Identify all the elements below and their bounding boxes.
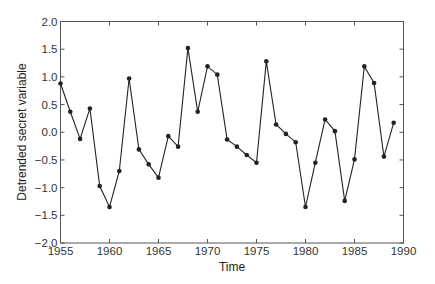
data-point [274, 122, 279, 127]
x-tick-label: 1975 [244, 245, 270, 257]
data-point [88, 106, 93, 111]
data-point [313, 160, 318, 165]
data-point [323, 117, 328, 122]
data-point [166, 134, 171, 139]
y-tick-label: 2.0 [42, 16, 58, 28]
data-point [382, 154, 387, 159]
y-axis-label: Detrended secret variable [15, 63, 29, 201]
x-tick-label: 1960 [97, 245, 123, 257]
line-chart: 2.01.51.00.50.0−0.5−1.0−1.5−2.0 19551960… [0, 0, 435, 284]
data-point [78, 137, 83, 142]
data-point [284, 132, 289, 137]
data-point [97, 184, 102, 189]
y-tick-label: −1.0 [35, 182, 58, 194]
y-tick-label: −1.5 [35, 209, 58, 221]
data-point [176, 144, 181, 149]
data-point [127, 76, 132, 81]
data-point [225, 137, 230, 142]
data-point [362, 64, 367, 69]
data-point [146, 162, 151, 167]
data-point [352, 157, 357, 162]
series-line [61, 48, 394, 207]
data-point [303, 205, 308, 210]
y-tick-label: −0.5 [35, 154, 58, 166]
x-tick-label: 1980 [293, 245, 319, 257]
data-point [333, 129, 338, 134]
data-point [205, 64, 210, 69]
data-point [342, 199, 347, 204]
data-point [195, 109, 200, 114]
x-tick-label: 1970 [195, 245, 221, 257]
x-tick-label: 1965 [146, 245, 172, 257]
data-point [107, 205, 112, 210]
y-tick-label: 0.0 [42, 126, 58, 138]
series-markers [58, 46, 396, 210]
y-tick-label: 1.5 [42, 43, 58, 55]
data-point [244, 153, 249, 158]
x-tick-label: 1985 [342, 245, 368, 257]
y-tick-label: 1.0 [42, 71, 58, 83]
x-axis-ticks: 19551960196519701975198019851990 [48, 22, 417, 258]
data-point [293, 140, 298, 145]
y-tick-label: 0.5 [42, 99, 58, 111]
data-point [372, 81, 377, 86]
data-point [215, 72, 220, 77]
data-point [156, 175, 161, 180]
data-point [68, 109, 73, 114]
data-point [391, 121, 396, 126]
data-point [264, 59, 269, 64]
data-point [235, 144, 240, 149]
y-axis-ticks: 2.01.51.00.50.0−0.5−1.0−1.5−2.0 [35, 16, 404, 250]
data-point [186, 46, 191, 51]
x-tick-label: 1955 [48, 245, 74, 257]
x-axis-label: Time [219, 260, 246, 274]
data-point [58, 81, 63, 86]
data-point [254, 160, 259, 165]
data-point [117, 169, 122, 174]
data-point [137, 147, 142, 152]
x-tick-label: 1990 [391, 245, 417, 257]
plot-frame [61, 22, 404, 244]
